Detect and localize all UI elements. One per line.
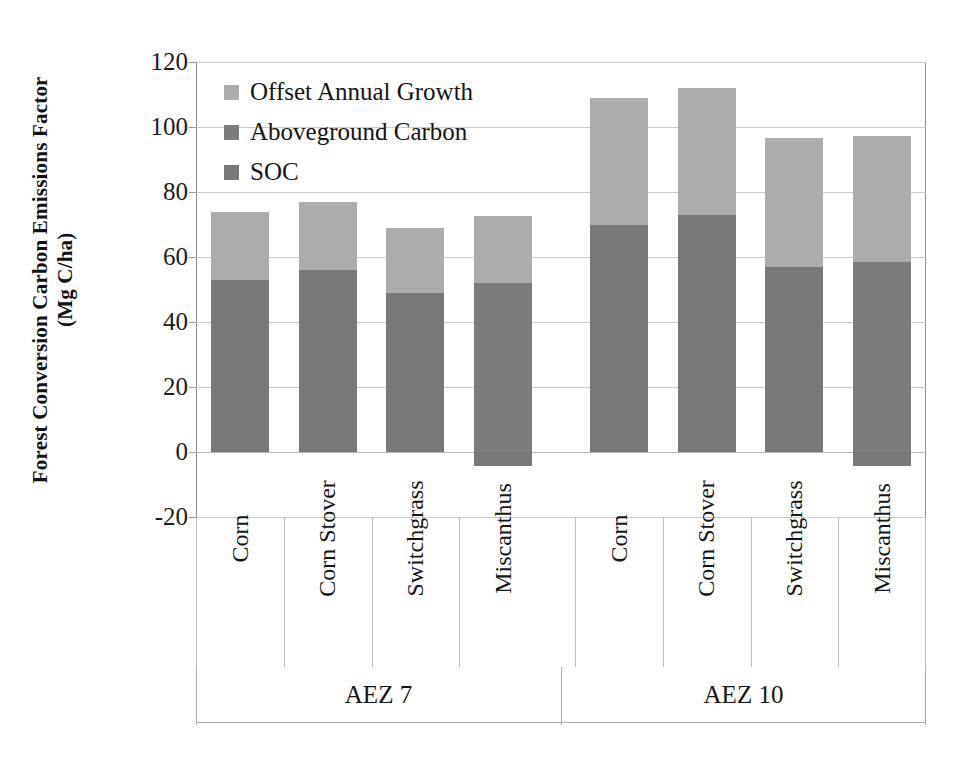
legend-swatch-icon — [224, 85, 239, 100]
chart-legend: Offset Annual GrowthAboveground CarbonSO… — [224, 72, 554, 192]
bar-aez-10-corn-stover[interactable] — [678, 62, 736, 517]
x-axis-group-labels: AEZ 7AEZ 10 — [196, 667, 926, 725]
bar-segment-offset-annual-growth — [678, 88, 736, 215]
bar-segment-soc — [590, 225, 648, 453]
legend-item[interactable]: SOC — [224, 152, 554, 192]
y-tick-mark--20 — [189, 517, 196, 518]
bar-segment-offset-annual-growth — [765, 138, 823, 266]
y-tick-label: 0 — [104, 438, 188, 466]
category-label-text: Corn — [226, 515, 253, 563]
bar-segment-offset-annual-growth — [299, 202, 357, 270]
category-label: Miscanthus — [812, 525, 952, 665]
y-axis-title-line2: (Mg C/ha) — [52, 77, 77, 484]
category-label-text: Miscanthus — [869, 483, 896, 594]
y-tick-label: 20 — [104, 373, 188, 401]
category-label-text: Corn Stover — [693, 480, 720, 597]
x-axis-category-labels: CornCorn StoverSwitchgrassMiscanthusCorn… — [196, 517, 926, 667]
legend-swatch-icon — [224, 125, 239, 140]
bar-segment-offset-annual-growth — [386, 228, 444, 293]
y-tick-mark-40 — [189, 322, 196, 323]
category-label-text: Corn — [605, 515, 632, 563]
y-tick-mark-100 — [189, 127, 196, 128]
bar-segment-offset-annual-growth — [590, 98, 648, 225]
bar-segment-aboveground-carbon — [853, 262, 911, 452]
bar-aez-10-miscanthus[interactable] — [853, 62, 911, 517]
category-label-text: Miscanthus — [490, 483, 517, 594]
legend-item[interactable]: Offset Annual Growth — [224, 72, 554, 112]
y-tick-label: 120 — [104, 48, 188, 76]
bar-segment-aboveground-carbon — [474, 283, 532, 452]
legend-label: Aboveground Carbon — [250, 118, 467, 146]
bar-segment-soc — [211, 280, 269, 452]
y-axis-title-line1: Forest Conversion Carbon Emissions Facto… — [27, 77, 51, 484]
bar-segment-soc — [853, 452, 911, 466]
category-label-text: Corn Stover — [314, 480, 341, 597]
bar-aez-10-corn[interactable] — [590, 62, 648, 517]
bar-segment-soc — [386, 293, 444, 452]
category-label-text: Switchgrass — [402, 481, 429, 597]
legend-swatch-icon — [224, 165, 239, 180]
group-label: AEZ 10 — [561, 681, 926, 709]
bar-aez-10-switchgrass[interactable] — [765, 62, 823, 517]
y-tick-mark-0 — [189, 452, 196, 453]
y-tick-label: 60 — [104, 243, 188, 271]
legend-label: Offset Annual Growth — [250, 78, 473, 106]
y-tick-label: 100 — [104, 113, 188, 141]
y-tick-label: 40 — [104, 308, 188, 336]
y-axis-tick-labels: -20020406080100120 — [100, 62, 188, 517]
bar-segment-soc — [299, 270, 357, 452]
category-label-text: Switchgrass — [781, 481, 808, 597]
group-label: AEZ 7 — [196, 681, 561, 709]
y-tick-mark-20 — [189, 387, 196, 388]
y-tick-label: 80 — [104, 178, 188, 206]
y-tick-mark-120 — [189, 62, 196, 63]
y-tick-mark-60 — [189, 257, 196, 258]
legend-label: SOC — [250, 158, 299, 186]
bar-segment-soc — [678, 215, 736, 452]
bar-segment-offset-annual-growth — [474, 216, 532, 283]
bar-segment-soc — [474, 452, 532, 466]
chart-figure: Forest Conversion Carbon Emissions Facto… — [0, 0, 968, 782]
y-axis-title: Forest Conversion Carbon Emissions Facto… — [0, 0, 104, 560]
legend-item[interactable]: Aboveground Carbon — [224, 112, 554, 152]
y-tick-mark-80 — [189, 192, 196, 193]
bar-segment-offset-annual-growth — [853, 136, 911, 262]
bar-segment-soc — [765, 267, 823, 452]
bar-segment-offset-annual-growth — [211, 212, 269, 280]
